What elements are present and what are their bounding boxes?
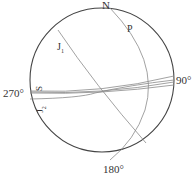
great-circle-s-1 — [30, 76, 174, 91]
label-plane-s: S — [35, 86, 44, 91]
label-east: 90° — [176, 75, 191, 86]
label-plane-j1: J1 — [57, 42, 64, 54]
label-j2-sub: 2 — [41, 106, 47, 109]
label-south: 180° — [103, 164, 124, 175]
great-circle-j2 — [30, 80, 174, 99]
label-j1-sub: 1 — [61, 48, 64, 54]
label-north: N — [102, 0, 110, 11]
label-plane-p: P — [127, 24, 133, 34]
label-plane-j2: J2 — [36, 106, 47, 113]
great-circle-j1 — [58, 30, 146, 143]
great-circle-s-3 — [30, 85, 174, 93]
stereonet-plot — [0, 0, 196, 180]
primitive-circle — [30, 8, 174, 152]
label-west: 270° — [3, 88, 24, 99]
label-j2-text: J — [35, 109, 45, 113]
